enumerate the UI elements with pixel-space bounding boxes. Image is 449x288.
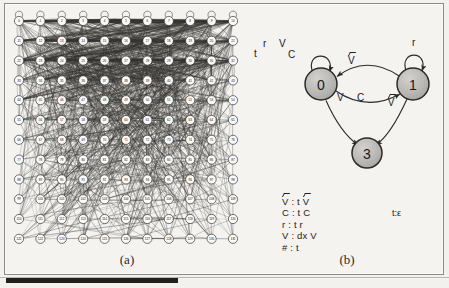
graph-node[interactable]: 104 (121, 195, 130, 204)
graph-node[interactable]: 92 (100, 175, 109, 184)
graph-node[interactable]: 81 (100, 155, 109, 164)
graph-node[interactable]: 124 (79, 234, 88, 243)
state-node-1[interactable]: 1 (397, 68, 429, 100)
graph-node[interactable]: 103 (100, 195, 109, 204)
graph-node[interactable]: 42 (207, 76, 216, 85)
graph-node[interactable]: 52 (186, 96, 195, 105)
graph-node[interactable]: 58 (79, 115, 88, 124)
graph-node[interactable]: 57 (57, 115, 66, 124)
graph-node[interactable]: 6 (143, 16, 152, 25)
graph-node[interactable]: 13 (57, 36, 66, 45)
graph-node[interactable]: 26 (100, 56, 109, 65)
graph-node[interactable]: 131 (228, 234, 237, 243)
graph-node[interactable]: 25 (79, 56, 88, 65)
graph-node[interactable]: 72 (143, 135, 152, 144)
graph-node[interactable]: 32 (228, 56, 237, 65)
graph-node[interactable]: 94 (143, 175, 152, 184)
graph-node[interactable]: 48 (100, 96, 109, 105)
graph-node[interactable]: 89 (36, 175, 45, 184)
graph-node[interactable]: 87 (228, 155, 237, 164)
graph-node[interactable]: 70 (100, 135, 109, 144)
graph-node[interactable]: 55 (14, 115, 23, 124)
graph-node[interactable]: 129 (186, 234, 195, 243)
graph-node[interactable]: 74 (186, 135, 195, 144)
graph-node[interactable]: 14 (79, 36, 88, 45)
graph-node[interactable]: 117 (164, 214, 173, 223)
graph-node[interactable]: 40 (164, 76, 173, 85)
graph-node[interactable]: 23 (36, 56, 45, 65)
graph-node[interactable]: 9 (207, 16, 216, 25)
graph-node[interactable]: 28 (143, 56, 152, 65)
graph-node[interactable]: 118 (186, 214, 195, 223)
graph-node[interactable]: 111 (36, 214, 45, 223)
graph-node[interactable]: 105 (143, 195, 152, 204)
graph-node[interactable]: 75 (207, 135, 216, 144)
graph-node[interactable]: 110 (14, 214, 23, 223)
graph-node[interactable]: 38 (121, 76, 130, 85)
graph-node[interactable]: 34 (36, 76, 45, 85)
graph-node[interactable]: 79 (57, 155, 66, 164)
graph-node[interactable]: 106 (164, 195, 173, 204)
graph-node[interactable]: 7 (164, 16, 173, 25)
graph-node[interactable]: 29 (164, 56, 173, 65)
graph-node[interactable]: 62 (164, 115, 173, 124)
graph-node[interactable]: 10 (228, 16, 237, 25)
graph-node[interactable]: 126 (121, 234, 130, 243)
graph-node[interactable]: 130 (207, 234, 216, 243)
graph-node[interactable]: 1 (36, 16, 45, 25)
graph-node[interactable]: 37 (100, 76, 109, 85)
graph-node[interactable]: 18 (164, 36, 173, 45)
graph-node[interactable]: 119 (207, 214, 216, 223)
graph-node[interactable]: 3 (79, 16, 88, 25)
graph-node[interactable]: 0 (14, 16, 23, 25)
graph-node[interactable]: 114 (100, 214, 109, 223)
graph-node[interactable]: 88 (14, 175, 23, 184)
graph-node[interactable]: 30 (186, 56, 195, 65)
graph-node[interactable]: 54 (228, 96, 237, 105)
graph-node[interactable]: 93 (121, 175, 130, 184)
graph-node[interactable]: 43 (228, 76, 237, 85)
graph-node[interactable]: 85 (186, 155, 195, 164)
graph-node[interactable]: 44 (14, 96, 23, 105)
graph-node[interactable]: 83 (143, 155, 152, 164)
graph-node[interactable]: 107 (186, 195, 195, 204)
graph-node[interactable]: 49 (121, 96, 130, 105)
graph-node[interactable]: 20 (207, 36, 216, 45)
graph-node[interactable]: 76 (228, 135, 237, 144)
graph-node[interactable]: 113 (79, 214, 88, 223)
graph-node[interactable]: 99 (14, 195, 23, 204)
graph-node[interactable]: 60 (121, 115, 130, 124)
graph-node[interactable]: 78 (36, 155, 45, 164)
graph-node[interactable]: 5 (121, 16, 130, 25)
graph-node[interactable]: 115 (121, 214, 130, 223)
graph-node[interactable]: 61 (143, 115, 152, 124)
graph-node[interactable]: 102 (79, 195, 88, 204)
state-node-3[interactable]: 3 (352, 138, 382, 168)
graph-node[interactable]: 47 (79, 96, 88, 105)
graph-node[interactable]: 120 (228, 214, 237, 223)
graph-node[interactable]: 101 (57, 195, 66, 204)
graph-node[interactable]: 39 (143, 76, 152, 85)
graph-node[interactable]: 121 (14, 234, 23, 243)
graph-node[interactable]: 77 (14, 155, 23, 164)
graph-node[interactable]: 17 (143, 36, 152, 45)
graph-node[interactable]: 19 (186, 36, 195, 45)
graph-node[interactable]: 123 (57, 234, 66, 243)
graph-node[interactable]: 128 (164, 234, 173, 243)
graph-node[interactable]: 96 (186, 175, 195, 184)
graph-node[interactable]: 63 (186, 115, 195, 124)
graph-node[interactable]: 27 (121, 56, 130, 65)
graph-node[interactable]: 109 (228, 195, 237, 204)
graph-node[interactable]: 36 (79, 76, 88, 85)
graph-node[interactable]: 50 (143, 96, 152, 105)
graph-node[interactable]: 95 (164, 175, 173, 184)
graph-node[interactable]: 108 (207, 195, 216, 204)
graph-node[interactable]: 125 (100, 234, 109, 243)
graph-node[interactable]: 45 (36, 96, 45, 105)
graph-node[interactable]: 12 (36, 36, 45, 45)
graph-node[interactable]: 116 (143, 214, 152, 223)
graph-node[interactable]: 22 (14, 56, 23, 65)
graph-node[interactable]: 2 (57, 16, 66, 25)
graph-node[interactable]: 16 (121, 36, 130, 45)
graph-node[interactable]: 8 (186, 16, 195, 25)
